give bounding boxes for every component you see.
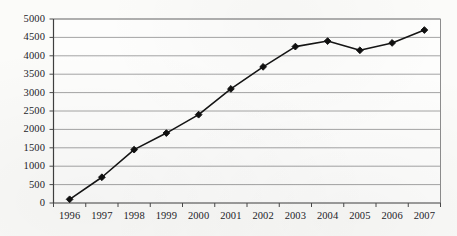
line-chart-plot [0, 0, 457, 236]
x-axis-tick-label: 1999 [150, 210, 182, 222]
x-axis-tick-label: 2004 [312, 210, 344, 222]
x-axis-tick-label: 2006 [376, 210, 408, 222]
x-axis-tick-label: 1997 [86, 210, 118, 222]
chart-figure: 0500100015002000250030003500400045005000… [0, 0, 457, 236]
x-axis-tick-label: 2000 [183, 210, 215, 222]
y-axis-tick-label: 1000 [0, 160, 45, 171]
x-axis-tick-label: 2005 [344, 210, 376, 222]
x-axis-tick-label: 2003 [279, 210, 311, 222]
y-axis-tick-label: 4500 [0, 31, 45, 42]
y-axis-tick-label: 500 [0, 179, 45, 190]
y-axis-tick-label: 3000 [0, 87, 45, 98]
y-axis-tick-label: 4000 [0, 50, 45, 61]
y-axis-tick-label: 2000 [0, 123, 45, 134]
x-axis-tick-label: 1996 [54, 210, 86, 222]
y-axis-tick-label: 3500 [0, 68, 45, 79]
x-axis-tick-label: 2007 [408, 210, 440, 222]
y-axis-tick-label: 1500 [0, 142, 45, 153]
x-axis-tick-label: 2001 [215, 210, 247, 222]
y-axis-tick-label: 2500 [0, 105, 45, 116]
y-axis-tick-label: 5000 [0, 13, 45, 24]
x-axis-ticks [54, 203, 441, 207]
x-axis-tick-label: 1998 [118, 210, 150, 222]
y-axis-tick-label: 0 [0, 197, 45, 208]
x-axis-tick-label: 2002 [247, 210, 279, 222]
